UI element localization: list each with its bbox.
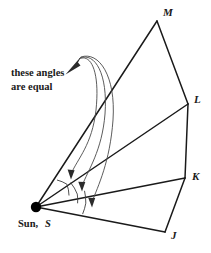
segment-m-l (157, 21, 188, 104)
pointer-arrow-1-shaft (71, 58, 97, 174)
caption-line-2: are equal (11, 81, 53, 92)
figure-container: M L K J Sun, S these angles are equal (0, 0, 211, 253)
pointer-arrow-2-head (78, 182, 85, 192)
vertex-label-k: K (191, 170, 200, 182)
sun-label-symbol: S (45, 218, 51, 229)
angle-arc-ksj (83, 191, 86, 214)
segment-k-j (165, 178, 185, 232)
sun-label-word: Sun, (18, 218, 39, 229)
pointer-arrow-1-head (68, 170, 75, 180)
pointer-arrow-origin-head (66, 56, 82, 75)
ray-sun-j (36, 207, 165, 232)
angle-arc-msl (57, 180, 69, 196)
vertex-label-j: J (170, 229, 177, 241)
vertex-label-m: M (162, 6, 174, 18)
orbit-chain-group (157, 21, 188, 232)
equal-angles-diagram: M L K J Sun, S these angles are equal (0, 0, 211, 253)
vertex-label-l: L (193, 93, 201, 105)
ray-sun-m (36, 21, 157, 207)
caption-line-1: these angles (11, 67, 64, 78)
pointer-arrow-2-shaft (80, 57, 105, 186)
segment-l-k (185, 104, 188, 178)
pointer-arrow-3-head (88, 198, 95, 208)
sun-dot-icon (31, 202, 41, 212)
